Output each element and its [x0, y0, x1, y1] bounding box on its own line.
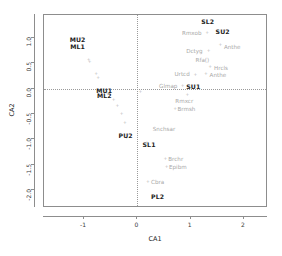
- data-point-marker: [185, 93, 188, 96]
- data-point-marker: [219, 43, 222, 46]
- ca-biplot-figure: MU2ML1MU1ML2PU2SL1PL2SL2SU2SU1RmxobDctyg…: [0, 0, 282, 256]
- site-label: SU2: [216, 27, 230, 34]
- species-label: Brchr: [168, 156, 183, 162]
- data-point-marker: [139, 90, 142, 93]
- y-axis-line: [34, 14, 35, 207]
- species-label: Hrcls: [214, 65, 228, 71]
- x-axis-label: CA1: [148, 235, 161, 243]
- x-tick: [190, 216, 191, 219]
- data-point-marker: [123, 121, 126, 124]
- site-label: SU1: [186, 83, 200, 90]
- y-tick-label: -0.5: [25, 113, 32, 125]
- y-tick-label: -1.0: [25, 138, 32, 150]
- x-tick: [136, 216, 137, 219]
- x-tick-label: 0: [134, 221, 138, 228]
- y-tick-label: -1.5: [25, 164, 32, 176]
- species-label: Rmxob: [182, 30, 201, 36]
- data-point-marker: [116, 104, 119, 107]
- species-label: Rmxcr: [175, 98, 193, 104]
- data-point-marker: [88, 60, 91, 63]
- y-axis-label: CA2: [8, 103, 16, 116]
- species-label: Anthe: [210, 72, 227, 78]
- species-label: Urtcd: [175, 71, 190, 77]
- data-point-marker: [193, 73, 196, 76]
- data-point-marker: [94, 72, 97, 75]
- y-tick-label: 0.5: [25, 62, 32, 72]
- species-label: Snchsar: [153, 126, 175, 132]
- site-label: ML1: [70, 42, 85, 49]
- site-label: SL1: [143, 141, 156, 148]
- data-point-marker: [208, 65, 211, 68]
- x-tick: [243, 216, 244, 219]
- plot-panel: MU2ML1MU1ML2PU2SL1PL2SL2SU2SU1RmxobDctyg…: [43, 14, 267, 207]
- zero-line-vertical: [137, 15, 138, 206]
- data-point-marker: [120, 112, 123, 115]
- data-point-marker: [165, 165, 168, 168]
- x-tick-label: 2: [241, 221, 245, 228]
- x-axis-line: [43, 216, 267, 217]
- species-label: Rfa(): [196, 57, 210, 63]
- site-label: PU2: [119, 132, 133, 139]
- data-point-marker: [96, 76, 99, 79]
- species-label: Dctyg: [186, 48, 202, 54]
- data-point-marker: [205, 31, 208, 34]
- data-point-marker: [164, 157, 167, 160]
- species-label: Glmap: [159, 83, 177, 89]
- species-label: Brmsh: [177, 106, 195, 112]
- data-point-marker: [87, 58, 90, 61]
- y-tick-label: 0.0: [25, 88, 32, 98]
- x-tick-label: 1: [188, 221, 192, 228]
- x-tick: [83, 216, 84, 219]
- data-point-marker: [204, 72, 207, 75]
- data-point-marker: [173, 107, 176, 110]
- species-label: Anthe: [224, 44, 241, 50]
- data-point-marker: [181, 84, 184, 87]
- zero-line-horizontal: [44, 89, 266, 90]
- species-label: Cbra: [151, 179, 164, 185]
- y-tick-label: -2.0: [25, 189, 32, 201]
- data-point-marker: [207, 49, 210, 52]
- species-label: Epibm: [169, 164, 187, 170]
- data-point-marker: [112, 98, 115, 101]
- site-label: PL2: [151, 193, 164, 200]
- x-tick-label: -1: [80, 221, 86, 228]
- site-label: SL2: [201, 18, 214, 25]
- y-tick-label: 1.0: [25, 37, 32, 47]
- data-point-marker: [146, 180, 149, 183]
- site-label: ML2: [97, 92, 112, 99]
